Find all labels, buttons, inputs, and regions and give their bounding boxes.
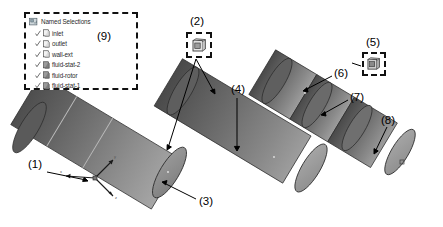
list-item[interactable]: fluid-stat-2 xyxy=(35,60,133,71)
face-selection-icon xyxy=(43,29,50,37)
body-selection-icon xyxy=(43,71,50,79)
face-selection-icon xyxy=(43,40,50,48)
callout-label-1: (1) xyxy=(28,159,42,171)
body-selection-icon xyxy=(43,61,50,69)
list-item[interactable]: fluid-stat-1 xyxy=(35,81,133,92)
named-selections-panel[interactable]: Named Selections inlet xyxy=(24,12,138,90)
callout-label-5: (5) xyxy=(366,37,380,49)
named-selections-list: inlet outlet wal xyxy=(29,28,133,91)
face-selection-icon xyxy=(43,50,50,58)
list-item[interactable]: outlet xyxy=(35,39,133,50)
leader-5 xyxy=(352,63,361,66)
highlighted-body-tool-5[interactable] xyxy=(362,52,386,76)
leader-1 xyxy=(47,172,86,180)
named-selections-title: Named Selections xyxy=(41,18,91,25)
callout-label-6: (6) xyxy=(334,68,348,80)
cfd-geometry-annotated-screenshot: Named Selections inlet xyxy=(0,0,443,227)
checkmark-icon[interactable] xyxy=(35,40,41,47)
body-selection-icon xyxy=(43,82,50,90)
list-item-label: inlet xyxy=(52,30,63,37)
cylinder-3-cap-center-dot xyxy=(304,92,306,94)
list-item-label: outlet xyxy=(52,40,67,47)
checkmark-icon[interactable] xyxy=(35,51,41,58)
callout-label-3: (3) xyxy=(199,196,213,208)
checkmark-icon[interactable] xyxy=(35,30,41,37)
cylinder-1-cap-center-dot xyxy=(167,171,169,173)
named-selections-icon xyxy=(29,17,38,26)
callout-label-7: (7) xyxy=(350,92,364,104)
list-item-label: wall-ext xyxy=(52,51,73,58)
leader-2b-arrowhead xyxy=(167,145,171,150)
callout-label-4: (4) xyxy=(231,84,245,96)
list-item[interactable]: wall-ext xyxy=(35,49,133,60)
checkmark-icon[interactable] xyxy=(35,82,41,89)
cylinder-2-cap-center-dot xyxy=(273,156,275,158)
axis-origin-marker xyxy=(93,176,97,180)
axis-label-y: y xyxy=(114,155,116,159)
highlighted-body-tool-2[interactable] xyxy=(186,32,212,58)
body-cube-icon xyxy=(192,38,207,53)
list-item[interactable]: inlet xyxy=(35,28,133,39)
list-item[interactable]: fluid-rotor xyxy=(35,70,133,81)
list-item-label: fluid-stat-2 xyxy=(52,61,80,68)
callout-label-9: (9) xyxy=(97,31,111,43)
list-item-label: fluid-rotor xyxy=(52,72,78,79)
checkmark-icon[interactable] xyxy=(35,61,41,68)
list-item-label: fluid-stat-1 xyxy=(52,82,80,89)
leader-3 xyxy=(164,183,196,199)
body-cube-icon xyxy=(367,57,381,71)
callout-label-2: (2) xyxy=(190,16,204,28)
axis-label-z: z xyxy=(115,196,117,200)
callout-label-8: (8) xyxy=(381,115,395,127)
named-selections-header[interactable]: Named Selections xyxy=(29,16,133,27)
checkmark-icon[interactable] xyxy=(35,72,41,79)
axis-label-x: x xyxy=(60,170,62,174)
